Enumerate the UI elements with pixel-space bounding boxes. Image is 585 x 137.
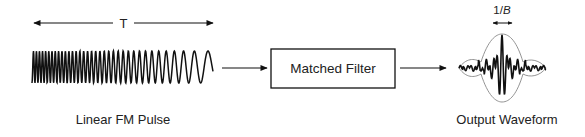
duration-label: T bbox=[120, 16, 128, 31]
matched-filter-label: Matched Filter bbox=[290, 61, 376, 76]
duration-arrow: T bbox=[34, 16, 213, 31]
output-caption: Output Waveform bbox=[456, 112, 557, 127]
width-label-variable: B bbox=[503, 4, 511, 16]
mainlobe-width-label: 1/B bbox=[493, 4, 511, 16]
linear-fm-pulse-waveform bbox=[32, 51, 213, 83]
mainlobe-width-marker: 1/B bbox=[493, 4, 512, 23]
matched-filter-block: Matched Filter bbox=[271, 49, 395, 88]
input-caption: Linear FM Pulse bbox=[76, 112, 171, 127]
output-waveform bbox=[459, 35, 546, 94]
diagram-canvas: T Linear FM Pulse Matched Filter 1/B Out… bbox=[0, 0, 585, 137]
